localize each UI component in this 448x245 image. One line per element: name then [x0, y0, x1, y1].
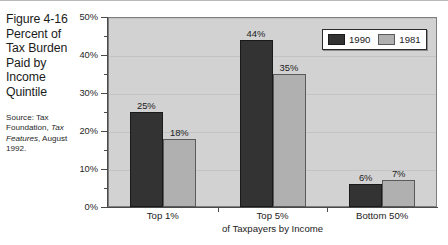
y-tick-major: [101, 93, 108, 94]
source-prefix: Source: Tax Foundation,: [6, 113, 51, 133]
bar-1981-Bottom50: [382, 180, 415, 207]
y-tick-label: 20%: [62, 126, 98, 136]
bar-1981-Top5: [273, 74, 306, 207]
y-tick-label: 30%: [62, 88, 98, 98]
y-tick-label: 40%: [62, 50, 98, 60]
x-category-label: Top 5%: [257, 210, 289, 221]
bar-value-label: 18%: [170, 127, 189, 138]
gridline: [109, 18, 436, 19]
legend-label-1981: 1981: [399, 34, 420, 45]
y-tick-label: 0%: [62, 202, 98, 212]
bar-value-label: 25%: [137, 100, 156, 111]
bar-value-label: 35%: [280, 62, 299, 73]
bar-1990-Top5: [240, 40, 273, 207]
bar-value-label: 6%: [359, 172, 373, 183]
bar-1990-Top1: [130, 112, 163, 207]
x-axis-title: of Taxpayers by Income: [108, 223, 437, 234]
y-tick-minor: [104, 188, 108, 189]
y-tick-minor: [104, 74, 108, 75]
legend-label-1990: 1990: [349, 34, 370, 45]
bar-1981-Top1: [163, 139, 196, 207]
x-category-label: Top 1%: [147, 210, 179, 221]
gridline: [109, 56, 436, 57]
y-tick-major: [101, 131, 108, 132]
y-tick-minor: [104, 112, 108, 113]
y-axis-labels: 0%10%20%30%40%50%: [60, 1, 98, 245]
x-axis-line: [107, 207, 438, 208]
y-tick-major: [101, 169, 108, 170]
y-tick-label: 50%: [62, 12, 98, 22]
y-tick-major: [101, 55, 108, 56]
x-category-label: Bottom 50%: [356, 210, 408, 221]
y-tick-minor: [104, 150, 108, 151]
y-tick-major: [101, 17, 108, 18]
bar-value-label: 44%: [247, 28, 266, 39]
figure-bar-chart: Figure 4-16Percent ofTax BurdenPaid byIn…: [0, 0, 448, 245]
x-axis-separator-tick: [327, 207, 328, 212]
chart-legend: 19901981: [322, 29, 427, 50]
y-tick-minor: [104, 36, 108, 37]
y-tick-label: 10%: [62, 164, 98, 174]
bar-1990-Bottom50: [349, 184, 382, 207]
legend-item-1990: 1990: [328, 34, 370, 45]
bar-value-label: 7%: [392, 168, 406, 179]
y-tick-major: [101, 207, 108, 208]
x-axis-separator-tick: [218, 207, 219, 212]
legend-swatch-1981: [378, 34, 395, 45]
legend-swatch-1990: [328, 34, 345, 45]
legend-item-1981: 1981: [378, 34, 420, 45]
